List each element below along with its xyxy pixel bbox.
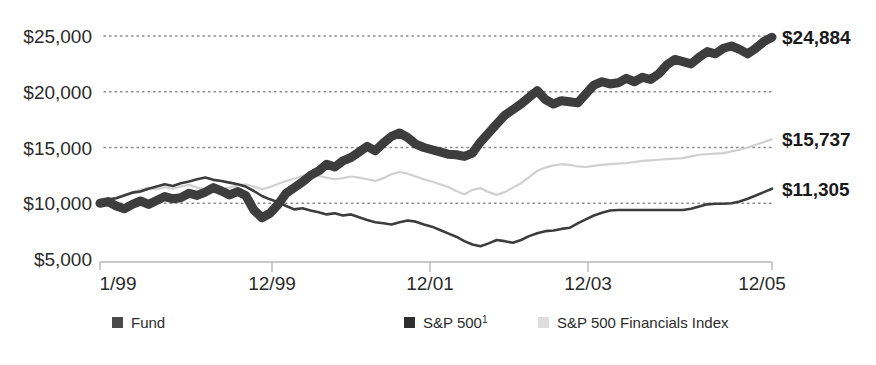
x-axis-labels: 1/9912/9912/0112/0312/05 bbox=[100, 273, 786, 294]
x-axis-tick-label: 12/03 bbox=[564, 273, 612, 294]
y-axis-tick-label: $5,000 bbox=[34, 249, 92, 270]
legend-swatch bbox=[538, 317, 549, 328]
y-axis-tick-label: $20,000 bbox=[23, 82, 92, 103]
legend-label: S&P 500 Financials Index bbox=[557, 314, 729, 331]
series-lines bbox=[100, 37, 772, 246]
x-axis-ticks bbox=[272, 262, 588, 272]
series-end-label-s-p-500-financials-index: $15,737 bbox=[782, 129, 851, 150]
y-axis-tick-label: $10,000 bbox=[23, 193, 92, 214]
y-axis-tick-label: $15,000 bbox=[23, 138, 92, 159]
growth-of-investment-chart: $25,000$20,000$15,000$10,000$5,000 1/991… bbox=[0, 0, 876, 365]
plot-axes bbox=[100, 262, 772, 270]
x-axis-tick-label: 1/99 bbox=[100, 273, 137, 294]
series-end-label-fund: $24,884 bbox=[782, 27, 851, 48]
chart-canvas: $25,000$20,000$15,000$10,000$5,000 1/991… bbox=[0, 0, 876, 365]
y-axis-labels: $25,000$20,000$15,000$10,000$5,000 bbox=[23, 26, 92, 270]
chart-legend: FundS&P 5001S&P 500 Financials Index bbox=[112, 314, 729, 332]
legend-superscript: 1 bbox=[482, 314, 488, 325]
series-end-label-s-p-500: $11,305 bbox=[782, 179, 850, 200]
legend-swatch bbox=[404, 317, 415, 328]
legend-label: S&P 5001 bbox=[423, 314, 488, 332]
series-line-fund bbox=[100, 37, 772, 217]
legend-swatch bbox=[112, 317, 123, 328]
x-axis-tick-label: 12/01 bbox=[406, 273, 454, 294]
y-axis-tick-label: $25,000 bbox=[23, 26, 92, 47]
x-axis-tick-label: 12/05 bbox=[738, 273, 786, 294]
x-axis-tick-label: 12/99 bbox=[248, 273, 296, 294]
legend-label: Fund bbox=[131, 314, 165, 331]
series-end-labels: $24,884$11,305$15,737 bbox=[782, 27, 851, 199]
